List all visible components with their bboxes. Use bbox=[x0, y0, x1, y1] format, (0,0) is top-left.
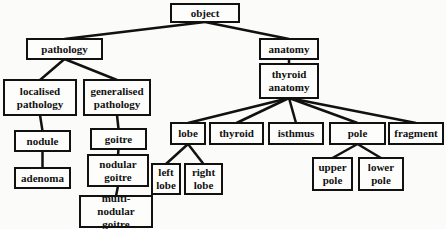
edge-lobe-to-left-lobe bbox=[166, 144, 188, 164]
object-hierarchy-diagram: objectpathologylocalised pathologygenera… bbox=[0, 0, 446, 229]
edge-localised-pathology-to-nodule bbox=[40, 115, 43, 131]
edge-pathology-to-localised-pathology bbox=[40, 59, 65, 80]
node-multi-nodular-goitre: multi-nodular goitre bbox=[79, 195, 153, 228]
edge-thyroid-anatomy-to-thyroid bbox=[237, 98, 290, 123]
node-pathology: pathology bbox=[26, 38, 103, 60]
edge-thyroid-anatomy-to-isthmus bbox=[289, 98, 296, 123]
node-lower-pole: lower pole bbox=[358, 157, 404, 191]
node-adenoma: adenoma bbox=[14, 167, 71, 189]
edge-pole-to-upper-pole bbox=[333, 144, 358, 158]
node-lobe: lobe bbox=[170, 122, 206, 145]
node-left-lobe: left lobe bbox=[151, 163, 181, 195]
edge-lobe-to-right-lobe bbox=[188, 144, 204, 164]
node-object: object bbox=[170, 3, 240, 23]
node-nodular-goitre: nodular goitre bbox=[87, 154, 149, 187]
node-anatomy: anatomy bbox=[259, 38, 319, 60]
node-localised-pathology: localised pathology bbox=[3, 79, 77, 116]
edge-pole-to-lower-pole bbox=[358, 144, 382, 158]
node-right-lobe: right lobe bbox=[184, 163, 223, 195]
node-nodule: nodule bbox=[14, 130, 71, 152]
node-thyroid: thyroid bbox=[209, 122, 264, 145]
node-generalised-pathology: generalised pathology bbox=[83, 79, 151, 116]
node-thyroid-anatomy: thyroid anatomy bbox=[259, 63, 319, 99]
node-pole: pole bbox=[329, 122, 386, 145]
edge-object-to-pathology bbox=[65, 22, 206, 39]
node-goitre: goitre bbox=[90, 128, 147, 150]
node-fragment: fragment bbox=[388, 122, 444, 145]
node-isthmus: isthmus bbox=[268, 122, 324, 145]
edge-pathology-to-generalised-pathology bbox=[65, 59, 118, 80]
edge-thyroid-anatomy-to-fragment bbox=[289, 98, 416, 123]
node-upper-pole: upper pole bbox=[312, 157, 353, 191]
edge-thyroid-anatomy-to-lobe bbox=[188, 98, 289, 123]
edge-object-to-anatomy bbox=[205, 22, 289, 39]
edge-generalised-pathology-to-goitre bbox=[117, 115, 119, 129]
